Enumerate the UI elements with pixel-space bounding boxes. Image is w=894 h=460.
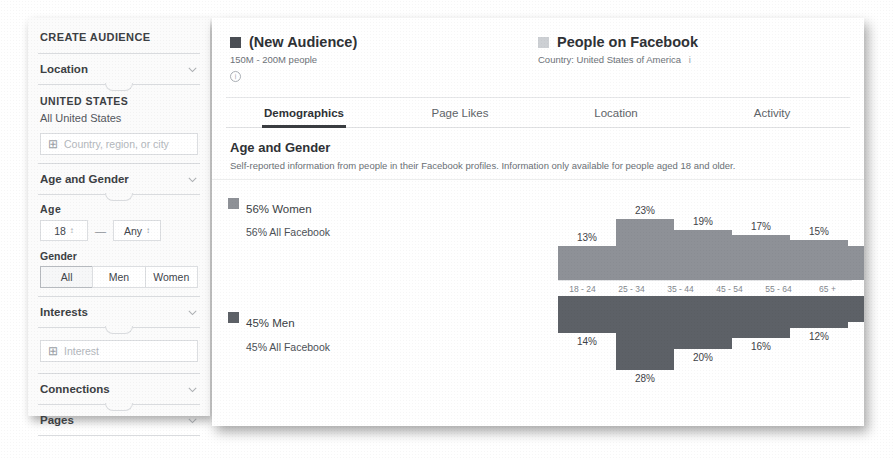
insights-tabs: Demographics Page Likes Location Activit… — [226, 97, 850, 128]
location-selected-value: All United States — [40, 112, 198, 124]
women-bar[interactable] — [616, 219, 674, 280]
men-bar-value: 28% — [635, 373, 655, 384]
sidebar-title: CREATE AUDIENCE — [28, 18, 210, 53]
age-max-stepper[interactable]: Any ↕ — [113, 220, 161, 241]
gender-segmented-control: All Men Women — [40, 266, 198, 288]
comparison-info-icon[interactable]: i — [689, 54, 691, 65]
audience-color-swatch — [230, 37, 241, 48]
women-bars-group: 13%23%19%17%15%13% — [558, 182, 852, 280]
sidebar-section-interests[interactable]: Interests — [28, 297, 210, 327]
sidebar-section-label: Age and Gender — [40, 173, 129, 185]
gender-option-men[interactable]: Men — [92, 266, 145, 288]
stepper-arrows-icon: ↕ — [146, 227, 150, 235]
age-label: Age — [40, 203, 198, 215]
men-bar-column[interactable]: 14% — [558, 296, 616, 347]
tab-demographics[interactable]: Demographics — [226, 98, 382, 127]
divider — [38, 435, 200, 436]
men-bar[interactable] — [616, 296, 674, 370]
men-bar-value: 12% — [809, 331, 829, 342]
gender-label: Gender — [40, 250, 198, 262]
stepper-arrows-icon: ↕ — [70, 227, 74, 235]
audience-title-row: (New Audience) — [230, 34, 538, 50]
sidebar-section-label: Interests — [40, 306, 88, 318]
age-range-separator: — — [95, 225, 106, 237]
women-bar[interactable] — [558, 246, 616, 280]
men-bar-column[interactable]: 16% — [732, 296, 790, 352]
sidebar-section-location[interactable]: Location — [28, 54, 210, 84]
men-bar-column[interactable]: 10% — [848, 296, 864, 336]
women-bar-value: 23% — [635, 205, 655, 216]
women-bar-column[interactable]: 17% — [732, 221, 790, 280]
location-search-input[interactable]: ⊞ Country, region, or city — [40, 133, 198, 155]
legend-women-text: 56% Women 56% All Facebook — [246, 196, 330, 242]
men-bar-column[interactable]: 20% — [674, 296, 732, 363]
axis-category-label: 45 - 54 — [705, 284, 754, 294]
comparison-color-swatch — [538, 37, 549, 48]
men-bar-column[interactable]: 12% — [790, 296, 848, 342]
legend-swatch-men — [228, 312, 239, 323]
age-range-control: 18 ↕ — Any ↕ — [40, 220, 198, 241]
app-root: CREATE AUDIENCE Location UNITED STATES A… — [0, 0, 894, 460]
women-bar-column[interactable]: 15% — [790, 226, 848, 280]
legend-swatch-women — [228, 198, 239, 209]
sidebar-section-label: Location — [40, 63, 88, 75]
women-bars-row: 13%23%19%17%15%13% — [558, 182, 852, 280]
chart-axis: 18 - 2425 - 3435 - 4445 - 5455 - 6465 + — [558, 280, 852, 294]
women-bar[interactable] — [674, 230, 732, 280]
men-bar[interactable] — [848, 296, 864, 322]
audience-summary: (New Audience) 150M - 200M people i — [230, 34, 538, 83]
men-bar[interactable] — [790, 296, 848, 328]
axis-labels-row: 18 - 2425 - 3435 - 4445 - 5455 - 6465 + — [558, 281, 852, 294]
axis-category-label: 55 - 64 — [754, 284, 803, 294]
interest-input-placeholder: Interest — [64, 345, 99, 357]
tab-page-likes[interactable]: Page Likes — [382, 98, 538, 127]
age-max-value: Any — [124, 225, 142, 237]
tab-location[interactable]: Location — [538, 98, 694, 127]
info-icon[interactable]: i — [230, 71, 241, 82]
divider-notch — [38, 327, 200, 328]
section-description: Self-reported information from people in… — [230, 160, 846, 171]
gender-option-women[interactable]: Women — [145, 266, 198, 288]
men-bar[interactable] — [732, 296, 790, 338]
men-bar-column[interactable]: 28% — [616, 296, 674, 384]
divider-notch — [38, 404, 200, 405]
women-bar-column[interactable]: 13% — [848, 232, 864, 280]
comparison-detail-text: Country: United States of America — [538, 54, 681, 65]
men-bar-value: 14% — [577, 336, 597, 347]
men-bar[interactable] — [558, 296, 616, 333]
comparison-name: People on Facebook — [557, 34, 698, 50]
sidebar-section-age-and-gender[interactable]: Age and Gender — [28, 164, 210, 194]
chevron-down-icon — [187, 307, 198, 318]
men-bar-value: 20% — [693, 352, 713, 363]
plus-icon: ⊞ — [48, 345, 58, 357]
section-heading: Age and Gender — [230, 140, 846, 155]
comparison-summary: People on Facebook Country: United State… — [538, 34, 846, 83]
women-bar[interactable] — [732, 235, 790, 280]
divider-notch — [38, 84, 200, 85]
location-panel: UNITED STATES All United States ⊞ Countr… — [28, 85, 210, 163]
age-min-stepper[interactable]: 18 ↕ — [40, 220, 88, 241]
age-gender-panel: Age 18 ↕ — Any ↕ Gender All Men Women — [28, 195, 210, 296]
women-bar[interactable] — [848, 246, 864, 280]
sidebar-section-connections[interactable]: Connections — [28, 374, 210, 404]
women-bar-column[interactable]: 23% — [616, 205, 674, 280]
legend-men-sublabel: 45% All Facebook — [246, 341, 330, 353]
women-bar-column[interactable]: 13% — [558, 232, 616, 280]
chevron-down-icon — [187, 384, 198, 395]
women-bar[interactable] — [790, 240, 848, 280]
women-bar-value: 17% — [751, 221, 771, 232]
axis-category-label: 65 + — [803, 284, 852, 294]
sidebar-section-label: Connections — [40, 383, 110, 395]
legend-men-label: 45% Men — [246, 317, 295, 329]
men-bar[interactable] — [674, 296, 732, 349]
audience-name: (New Audience) — [249, 34, 357, 50]
men-bars-group: 14%28%20%16%12%10% — [558, 296, 852, 384]
audience-reach: 150M - 200M people — [230, 54, 538, 65]
interest-search-input[interactable]: ⊞ Interest — [40, 340, 198, 362]
tab-activity[interactable]: Activity — [694, 98, 850, 127]
chevron-down-icon — [187, 174, 198, 185]
women-bar-value: 15% — [809, 226, 829, 237]
men-bar-value: 16% — [751, 341, 771, 352]
women-bar-column[interactable]: 19% — [674, 216, 732, 280]
gender-option-all[interactable]: All — [40, 266, 93, 288]
